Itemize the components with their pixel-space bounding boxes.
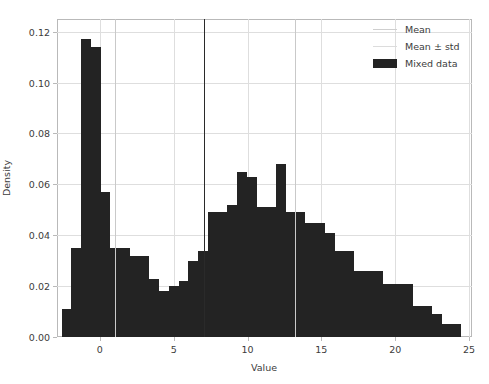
histogram-bar bbox=[188, 261, 198, 337]
x-tick bbox=[248, 337, 249, 341]
y-tick-label: 0.08 bbox=[29, 128, 50, 139]
x-tick bbox=[100, 337, 101, 341]
y-axis-title: Density bbox=[1, 160, 12, 196]
histogram-bar bbox=[383, 284, 393, 337]
histogram-bar bbox=[91, 47, 101, 337]
y-tick-label: 0.00 bbox=[29, 332, 50, 343]
y-tick-label: 0.02 bbox=[29, 281, 50, 292]
histogram-bar bbox=[149, 279, 159, 338]
x-tick-label: 10 bbox=[241, 344, 253, 355]
histogram-bar bbox=[227, 205, 237, 337]
y-tick bbox=[53, 235, 57, 236]
histogram-bar bbox=[374, 271, 384, 337]
reference-line-mean bbox=[204, 19, 205, 337]
histogram-bar bbox=[140, 256, 150, 337]
reference-line-mean-minus-std bbox=[115, 19, 116, 337]
histogram-bar bbox=[393, 284, 403, 337]
x-tick bbox=[321, 337, 322, 341]
y-tick bbox=[53, 184, 57, 185]
histogram-bar bbox=[237, 172, 247, 337]
histogram-bar bbox=[101, 192, 111, 337]
histogram-bar bbox=[344, 251, 354, 337]
histogram-bar bbox=[120, 248, 130, 337]
legend-label-mean: Mean bbox=[405, 24, 431, 35]
histogram-figure: 0.000.020.040.060.080.100.12 0510152025 … bbox=[0, 0, 489, 384]
legend-label-mean-std: Mean ± std bbox=[405, 41, 460, 52]
histogram-bar bbox=[71, 248, 81, 337]
histogram-bar bbox=[130, 256, 140, 337]
x-tick bbox=[469, 337, 470, 341]
histogram-bar bbox=[218, 212, 228, 337]
histogram-bar bbox=[452, 324, 462, 337]
axis-spine-left bbox=[57, 19, 58, 337]
x-tick-label: 5 bbox=[171, 344, 177, 355]
y-tick-label: 0.10 bbox=[29, 77, 50, 88]
histogram-bar bbox=[432, 314, 442, 337]
histogram-bar bbox=[276, 164, 286, 337]
x-tick-label: 20 bbox=[389, 344, 401, 355]
y-tick bbox=[53, 337, 57, 338]
histogram-bar bbox=[247, 177, 257, 337]
y-tick-label: 0.12 bbox=[29, 26, 50, 37]
histogram-bar bbox=[81, 39, 91, 337]
gridline-horizontal bbox=[57, 83, 472, 84]
y-tick bbox=[53, 83, 57, 84]
histogram-bar bbox=[422, 306, 432, 337]
x-tick-label: 25 bbox=[463, 344, 475, 355]
y-tick-label: 0.06 bbox=[29, 179, 50, 190]
reference-line-mean-plus-std bbox=[295, 19, 296, 337]
histogram-bar bbox=[62, 309, 72, 337]
histogram-bar bbox=[364, 271, 374, 337]
y-tick bbox=[53, 286, 57, 287]
histogram-bar bbox=[354, 271, 364, 337]
histogram-bar bbox=[159, 291, 169, 337]
legend-line-std-icon bbox=[372, 46, 398, 47]
histogram-bar bbox=[403, 284, 413, 337]
histogram-bar bbox=[305, 223, 315, 337]
x-axis-title: Value bbox=[251, 362, 277, 373]
histogram-bar bbox=[413, 306, 423, 337]
x-tick bbox=[395, 337, 396, 341]
legend-item-mixed-data: Mixed data bbox=[372, 55, 485, 72]
histogram-bar bbox=[442, 324, 452, 337]
histogram-bar bbox=[325, 233, 335, 337]
legend-label-mixed-data: Mixed data bbox=[405, 58, 457, 69]
histogram-bar bbox=[208, 212, 218, 337]
x-tick bbox=[174, 337, 175, 341]
chart-legend: Mean Mean ± std Mixed data bbox=[372, 19, 485, 72]
legend-item-mean-std: Mean ± std bbox=[372, 38, 485, 55]
y-tick-label: 0.04 bbox=[29, 230, 50, 241]
x-tick-label: 0 bbox=[97, 344, 103, 355]
y-tick bbox=[53, 133, 57, 134]
histogram-bar bbox=[266, 207, 276, 337]
histogram-bar bbox=[257, 207, 267, 337]
legend-item-mean: Mean bbox=[372, 21, 485, 38]
legend-line-mean-icon bbox=[372, 29, 398, 30]
histogram-bar bbox=[179, 281, 189, 337]
gridline-horizontal bbox=[57, 133, 472, 134]
gridline-horizontal bbox=[57, 184, 472, 185]
histogram-bar bbox=[315, 223, 325, 337]
y-tick bbox=[53, 32, 57, 33]
histogram-bar bbox=[296, 212, 306, 337]
legend-patch-icon bbox=[372, 59, 398, 68]
histogram-bar bbox=[335, 251, 345, 337]
x-tick-label: 15 bbox=[315, 344, 327, 355]
histogram-bar bbox=[169, 286, 179, 337]
